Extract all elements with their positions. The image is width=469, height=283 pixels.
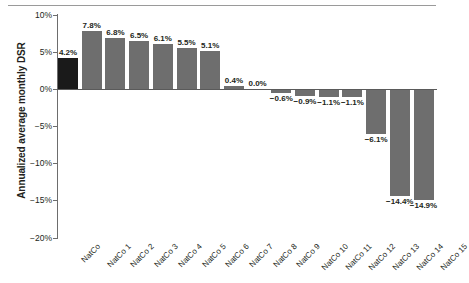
bar-natco-14 bbox=[390, 89, 410, 196]
x-axis-label-natco: NatCo bbox=[80, 242, 102, 264]
x-axis-label-natco-9: NatCo 9 bbox=[295, 242, 322, 269]
y-axis-tick-label: 5% bbox=[0, 47, 52, 57]
bar-value-label: 5.1% bbox=[189, 41, 231, 50]
bar-natco-13 bbox=[366, 89, 386, 134]
bar-natco-10 bbox=[295, 89, 315, 96]
bar-natco-11 bbox=[319, 89, 339, 97]
x-axis-label-natco-2: NatCo 2 bbox=[129, 242, 156, 269]
y-axis-tick bbox=[53, 126, 58, 127]
x-axis-label-natco-3: NatCo 3 bbox=[153, 242, 180, 269]
x-axis-label-natco-1: NatCo 1 bbox=[105, 242, 132, 269]
y-axis-tick bbox=[53, 238, 58, 239]
bar-value-label: 0.0% bbox=[237, 79, 279, 88]
bar-natco-2 bbox=[105, 38, 125, 89]
x-axis-label-natco-5: NatCo 5 bbox=[200, 242, 227, 269]
bar-natco bbox=[58, 58, 78, 89]
bar-natco-5 bbox=[177, 48, 197, 89]
y-axis-tick-label: −5% bbox=[0, 121, 52, 131]
y-axis-tick-label: −10% bbox=[0, 158, 52, 168]
y-axis-tick bbox=[53, 200, 58, 201]
x-axis-label-natco-7: NatCo 7 bbox=[247, 242, 274, 269]
y-axis-tick-label: 10% bbox=[0, 10, 52, 20]
bar-natco-12 bbox=[342, 89, 362, 97]
x-axis-label-natco-4: NatCo 4 bbox=[176, 242, 203, 269]
y-axis-tick-label: −20% bbox=[0, 233, 52, 243]
y-axis-tick-label: −15% bbox=[0, 195, 52, 205]
bar-value-label: −14.9% bbox=[403, 201, 445, 210]
bar-natco-15 bbox=[414, 89, 434, 200]
bar-natco-4 bbox=[153, 44, 173, 89]
zero-baseline bbox=[57, 89, 437, 90]
bar-natco-3 bbox=[129, 41, 149, 89]
header-divider bbox=[8, 5, 436, 6]
bar-natco-1 bbox=[82, 31, 102, 89]
y-axis-tick-label: 0% bbox=[0, 84, 52, 94]
y-axis-tick bbox=[53, 163, 58, 164]
x-axis-label-natco-6: NatCo 6 bbox=[224, 242, 251, 269]
x-axis-label-natco-8: NatCo 8 bbox=[271, 242, 298, 269]
y-axis-tick bbox=[53, 15, 58, 16]
